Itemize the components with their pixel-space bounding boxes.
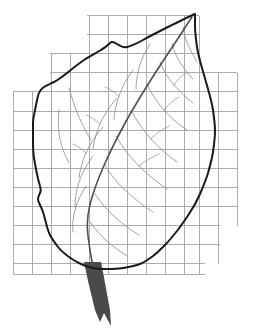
figure-background — [0, 0, 254, 333]
leaf-figure-canvas — [0, 0, 254, 333]
leaf-figure — [0, 0, 254, 333]
